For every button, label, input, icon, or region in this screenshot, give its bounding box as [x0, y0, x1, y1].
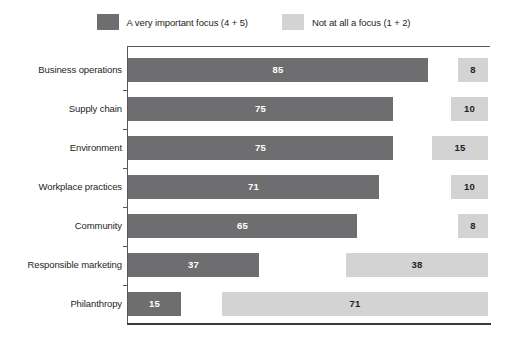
category-label: Business operations: [38, 58, 122, 82]
bar-important-focus: 65: [128, 214, 357, 238]
bar-row: Responsible marketing3738: [0, 253, 507, 277]
bar-value-label: 15: [432, 136, 488, 160]
bar-value-label: 37: [128, 253, 259, 277]
y-axis-tick: [123, 246, 127, 247]
y-axis-tick: [123, 90, 127, 91]
y-axis-tick: [123, 285, 127, 286]
bar-important-focus: 75: [128, 136, 393, 160]
bar-important-focus: 37: [128, 253, 259, 277]
bar-not-a-focus: 38: [346, 253, 488, 277]
bar-value-label: 10: [451, 175, 488, 199]
bar-row: Environment7515: [0, 136, 507, 160]
bar-rows: Business operations858Supply chain7510En…: [0, 0, 507, 347]
bar-value-label: 71: [128, 175, 379, 199]
bar-value-label: 71: [222, 292, 488, 316]
bar-row: Community658: [0, 214, 507, 238]
bar-value-label: 75: [128, 136, 393, 160]
bar-value-label: 8: [458, 214, 488, 238]
bar-important-focus: 71: [128, 175, 379, 199]
category-label: Philanthropy: [70, 292, 122, 316]
y-axis-tick: [123, 207, 127, 208]
bar-not-a-focus: 10: [451, 97, 488, 121]
bar-value-label: 75: [128, 97, 393, 121]
category-label: Workplace practices: [39, 175, 122, 199]
bar-not-a-focus: 15: [432, 136, 488, 160]
bar-row: Business operations858: [0, 58, 507, 82]
bar-value-label: 8: [458, 58, 488, 82]
bar-value-label: 15: [128, 292, 181, 316]
bar-not-a-focus: 71: [222, 292, 488, 316]
bar-important-focus: 85: [128, 58, 428, 82]
bar-not-a-focus: 8: [458, 214, 488, 238]
bar-not-a-focus: 10: [451, 175, 488, 199]
bar-row: Supply chain7510: [0, 97, 507, 121]
bar-value-label: 10: [451, 97, 488, 121]
bar-chart: A very important focus (4 + 5) Not at al…: [0, 0, 507, 347]
y-axis-tick: [123, 168, 127, 169]
category-label: Supply chain: [69, 97, 122, 121]
bar-important-focus: 75: [128, 97, 393, 121]
bar-value-label: 65: [128, 214, 357, 238]
category-label: Community: [75, 214, 122, 238]
bar-value-label: 38: [346, 253, 488, 277]
category-label: Environment: [70, 136, 122, 160]
bar-row: Workplace practices7110: [0, 175, 507, 199]
bar-row: Philanthropy1571: [0, 292, 507, 316]
bar-important-focus: 15: [128, 292, 181, 316]
y-axis-tick: [123, 129, 127, 130]
bar-value-label: 85: [128, 58, 428, 82]
category-label: Responsible marketing: [27, 253, 122, 277]
bar-not-a-focus: 8: [458, 58, 488, 82]
